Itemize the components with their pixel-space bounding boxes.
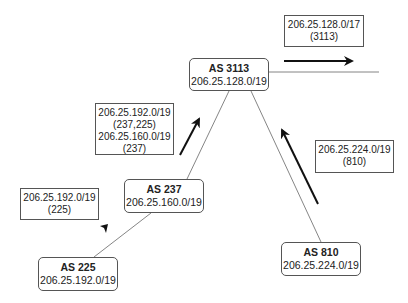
- as-prefix: 206.25.224.0/19: [282, 259, 360, 272]
- link-237-225: [94, 213, 151, 257]
- announcement-from237: 206.25.192.0/19 (237,225) 206.25.160.0/1…: [95, 103, 174, 155]
- as-number: AS 225: [39, 261, 117, 274]
- announcement-line: 206.25.192.0/19: [96, 107, 173, 119]
- announcement-line: (810): [316, 156, 393, 168]
- node-as225: AS 225 206.25.192.0/19: [38, 257, 118, 291]
- arrow-from810: [282, 130, 318, 204]
- announcement-line: 206.25.224.0/19: [316, 144, 393, 156]
- as-number: AS 237: [125, 183, 203, 196]
- announcement-from810: 206.25.224.0/19 (810): [315, 140, 394, 173]
- announcement-line: (3113): [285, 31, 363, 43]
- announcement-line: 206.25.192.0/19: [21, 192, 98, 204]
- node-as237: AS 237 206.25.160.0/19: [124, 179, 204, 213]
- as-prefix: 206.25.160.0/19: [125, 196, 203, 209]
- arrowhead-from225: [100, 224, 108, 233]
- announcement-from225: 206.25.192.0/19 (225): [20, 188, 99, 220]
- link-3113-237: [187, 91, 229, 179]
- announcement-line: (237): [96, 143, 173, 155]
- announcement-line: 206.25.160.0/19: [96, 131, 173, 143]
- as-prefix: 206.25.192.0/19: [39, 274, 117, 287]
- as-prefix: 206.25.128.0/19: [190, 75, 268, 88]
- as-number: AS 810: [282, 246, 360, 259]
- as-number: AS 3113: [190, 62, 268, 75]
- announcement-line: 206.25.128.0/17: [285, 19, 363, 31]
- announcement-line: (225): [21, 204, 98, 216]
- announcement-line: (237,225): [96, 119, 173, 131]
- link-3113-810: [251, 91, 321, 242]
- node-as3113: AS 3113 206.25.128.0/19: [189, 58, 269, 91]
- announcement-upstream: 206.25.128.0/17 (3113): [284, 15, 364, 47]
- arrow-from237: [180, 119, 199, 155]
- node-as810: AS 810 206.25.224.0/19: [281, 242, 361, 276]
